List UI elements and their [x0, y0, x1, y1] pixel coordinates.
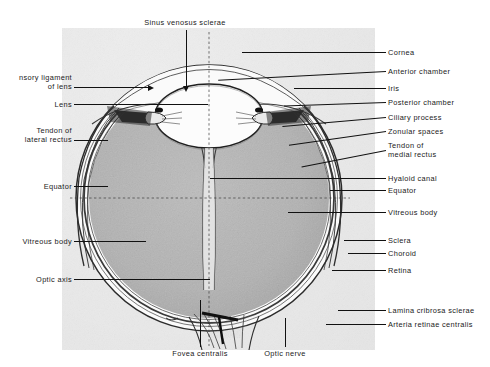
leader-sinus-venosus-sclerae [186, 30, 187, 89]
eyeball-cross-section-drawing [62, 28, 375, 350]
leader-equator-left [74, 186, 108, 187]
anatomical-plate [62, 28, 375, 350]
arrowhead-sinus-venosus-sclerae [183, 86, 189, 92]
leader-suspensory-ligament [74, 87, 150, 88]
leader-vitreous-body-left [74, 241, 146, 242]
label-iris: Iris [388, 84, 399, 93]
label-ciliary-process: Ciliary process [388, 113, 442, 122]
label-suspensory-ligament-of-lens: nsory ligament of lens [0, 73, 72, 91]
label-retina: Retina [388, 266, 411, 275]
label-cornea: Cornea [388, 48, 414, 57]
label-sclera: Sclera [388, 236, 411, 245]
arrowhead-suspensory-ligament [148, 85, 154, 91]
leader-retina [332, 270, 386, 271]
label-line-2: medial rectus [388, 150, 437, 159]
leader-sclera [344, 240, 386, 241]
leader-iris [294, 88, 386, 89]
label-lamina-cribrosa-sclerae: Lamina cribrosa sclerae [388, 306, 475, 315]
label-tendon-of-lateral-rectus: Tendon of lateral rectus [0, 126, 72, 144]
label-optic-nerve: Optic nerve [250, 349, 320, 358]
label-tendon-of-medial-rectus: Tendon of medial rectus [388, 141, 437, 159]
leader-hyaloid-canal [210, 178, 386, 179]
label-posterior-chamber: Posterior chamber [388, 98, 454, 107]
leader-lens [74, 104, 208, 105]
label-choroid: Choroid [388, 249, 416, 258]
label-fovea-centralis: Fovea centralis [160, 349, 240, 358]
label-line-1: Tendon of [0, 126, 72, 135]
label-optic-axis: Optic axis [0, 275, 72, 284]
label-line-1: nsory ligament [0, 73, 72, 82]
label-lens: Lens [0, 100, 72, 109]
label-line-2: of lens [0, 82, 72, 91]
label-line-2: lateral rectus [0, 135, 72, 144]
label-anterior-chamber: Anterior chamber [388, 67, 450, 76]
leader-cornea [242, 52, 386, 53]
label-hyaloid-canal: Hyaloid canal [388, 174, 437, 183]
leader-lamina-cribrosa-sclerae [338, 310, 386, 311]
label-vitreous-body-left: Vitreous body [0, 237, 72, 246]
leader-fovea-centralis [200, 300, 201, 347]
leader-choroid [348, 253, 386, 254]
leader-equator-right [330, 190, 386, 191]
leader-optic-axis [74, 279, 210, 280]
leader-vitreous-body-right [288, 212, 386, 213]
label-vitreous-body-right: Vitreous body [388, 208, 438, 217]
leader-tendon-of-lateral-rectus [74, 140, 108, 141]
label-zonular-spaces: Zonular spaces [388, 127, 443, 136]
leader-arteria-retinae-centralis [326, 324, 386, 325]
label-sinus-venosus-sclerae: Sinus venosus sclerae [110, 18, 260, 27]
leader-optic-nerve [285, 318, 286, 347]
label-equator-right: Equator [388, 186, 416, 195]
label-line-1: Tendon of [388, 141, 437, 150]
eye-anatomy-figure: Sinus venosus sclerae nsory ligament of … [0, 0, 490, 367]
label-equator-left: Equator [0, 182, 72, 191]
label-arteria-retinae-centralis: Arteria retinae centralis [388, 320, 473, 329]
